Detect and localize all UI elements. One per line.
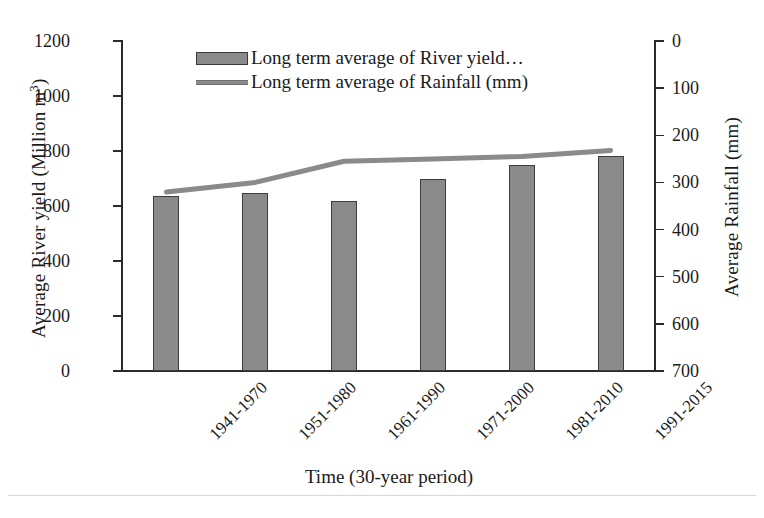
y-axis-right-tick [655, 276, 664, 277]
y-axis-left-tick-label: 1000 [10, 87, 70, 105]
legend-item-rainfall: Long term average of Rainfall (mm) [196, 70, 596, 94]
legend-item-river-yield: Long term average of River yield… [196, 46, 596, 70]
y-axis-left-tick-label: 200 [10, 307, 70, 325]
y-axis-right-tick-label: 100 [672, 79, 732, 97]
y-axis-left-tick [113, 315, 122, 316]
y-axis-left-tick [113, 150, 122, 151]
y-axis-right-tick [655, 370, 664, 371]
y-axis-left-tick-label: 400 [10, 252, 70, 270]
x-axis-tick-label: 1941-1970 [206, 378, 272, 444]
y-axis-left-tick-label: 800 [10, 142, 70, 160]
y-axis-left-tick [113, 260, 122, 261]
legend-label-river-yield: Long term average of River yield… [251, 47, 524, 69]
legend-bar-swatch-icon [196, 52, 248, 65]
x-axis-tick-label: 1951-1980 [295, 378, 361, 444]
caption-divider-top [8, 495, 756, 496]
y-axis-left-tick-label: 1200 [10, 32, 70, 50]
y-axis-right-tick-label: 0 [672, 32, 732, 50]
y-axis-right-tick [655, 87, 664, 88]
x-axis-tick-label: 1991-2015 [650, 378, 716, 444]
y-axis-right-tick [655, 323, 664, 324]
y-axis-left-tick-label: 0 [10, 362, 70, 380]
x-axis-tick-label: 1971-2000 [472, 378, 538, 444]
legend-line-swatch-icon [196, 80, 248, 85]
y-axis-left-tick [113, 370, 122, 371]
x-axis-tick-label: 1961-1990 [384, 378, 450, 444]
y-axis-right-tick-label: 300 [672, 173, 732, 191]
y-axis-left-tick [113, 40, 122, 41]
y-axis-right-tick [655, 135, 664, 136]
x-axis-tick-label: 1981-2010 [561, 378, 627, 444]
rainfall-line [166, 150, 610, 192]
y-axis-right-tick [655, 182, 664, 183]
x-axis-title: Time (30-year period) [122, 466, 656, 488]
y-axis-right-tick-label: 400 [672, 221, 732, 239]
y-axis-left-tick [113, 205, 122, 206]
chart-figure: Average River yield (Million m3) Average… [0, 0, 764, 518]
y-axis-right-tick-label: 500 [672, 268, 732, 286]
y-axis-left-tick [113, 95, 122, 96]
y-axis-right-tick [655, 229, 664, 230]
y-axis-right-tick-label: 600 [672, 315, 732, 333]
legend-label-rainfall: Long term average of Rainfall (mm) [251, 71, 528, 93]
y-axis-right-tick [655, 40, 664, 41]
y-axis-left-tick-label: 600 [10, 197, 70, 215]
y-axis-right-tick-label: 200 [672, 126, 732, 144]
chart-legend: Long term average of River yield… Long t… [196, 46, 596, 94]
